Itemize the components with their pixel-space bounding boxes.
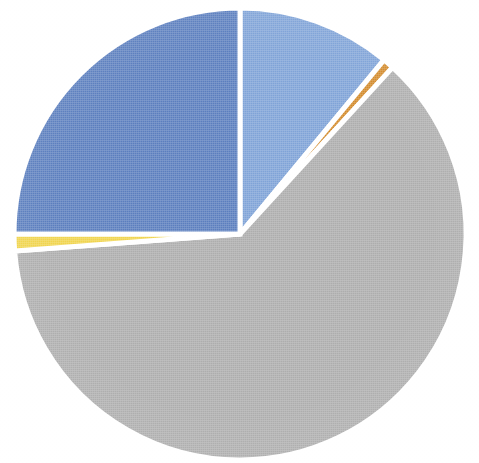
pie-chart-figure: Light blue segment — 11.0%Orange segment… <box>0 0 479 463</box>
pie-chart-canvas: Light blue segment — 11.0%Orange segment… <box>0 0 479 463</box>
pie-slices-group: Light blue segment — 11.0%Orange segment… <box>14 8 466 460</box>
